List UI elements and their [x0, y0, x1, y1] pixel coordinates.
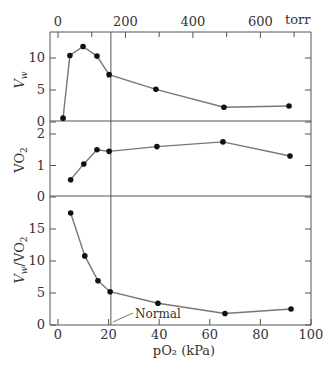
top-tick-label: 600	[248, 14, 273, 29]
data-point-vw	[221, 104, 227, 110]
data-point-vw_vo2	[107, 289, 113, 295]
data-point-vw	[153, 87, 159, 93]
data-point-vo2	[154, 144, 160, 150]
data-point-vw	[286, 103, 292, 109]
bottom-tick-label: 20	[100, 327, 117, 342]
data-point-vw	[60, 115, 66, 121]
normal-annotation: Normal	[135, 307, 181, 321]
data-point-vo2	[287, 153, 293, 159]
y-tick-label-vo2: 2	[37, 126, 45, 141]
chart-figure: 02004006000204060801000510012051015 torr…	[0, 0, 332, 368]
data-point-vo2	[220, 139, 226, 145]
data-point-vo2	[68, 177, 74, 183]
data-point-vo2	[106, 149, 112, 155]
bottom-tick-label: 40	[151, 327, 168, 342]
y-axis-title-vo2: VO2	[12, 147, 29, 174]
plot-frame	[50, 32, 311, 325]
data-point-vw_vo2	[95, 278, 101, 284]
series-line-vw_vo2	[71, 213, 291, 313]
normal-annotation-leader	[113, 313, 133, 322]
top-tick-label: 400	[181, 14, 206, 29]
data-point-vw_vo2	[82, 253, 88, 259]
series-line-vo2	[71, 142, 290, 180]
bottom-tick-label: 100	[299, 327, 324, 342]
y-tick-label-vw_vo2: 10	[28, 253, 45, 268]
top-tick-label: 0	[54, 14, 62, 29]
bottom-tick-label: 0	[54, 327, 62, 342]
top-tick-label: 200	[113, 14, 138, 29]
y-tick-label-vw_vo2: 5	[37, 285, 45, 300]
x-axis-title: pO₂ (kPa)	[153, 343, 215, 358]
y-tick-label-vw: 10	[28, 50, 45, 65]
data-point-vo2	[81, 161, 87, 167]
data-point-vo2	[94, 147, 100, 153]
y-tick-label-vo2: 0	[37, 189, 45, 204]
data-point-vw	[80, 44, 86, 50]
bottom-tick-label: 60	[202, 327, 219, 342]
data-point-vw	[94, 53, 100, 59]
y-tick-label-vw_vo2: 0	[37, 317, 45, 332]
y-tick-label-vw_vo2: 15	[28, 221, 45, 236]
data-series	[60, 44, 294, 317]
data-point-vw_vo2	[68, 210, 74, 216]
y-tick-label-vw: 5	[37, 82, 45, 97]
data-point-vw_vo2	[288, 306, 294, 312]
top-axis-unit-label: torr	[285, 12, 311, 27]
y-tick-label-vo2: 1	[37, 158, 45, 173]
data-point-vw	[106, 72, 112, 78]
y-axis-title-ratio: Vw/VO2	[12, 236, 29, 283]
bottom-tick-label: 80	[252, 327, 269, 342]
y-axis-title-vw: Vw	[12, 71, 29, 88]
data-point-vw_vo2	[155, 300, 161, 306]
data-point-vw_vo2	[222, 311, 228, 317]
data-point-vw	[67, 53, 73, 59]
